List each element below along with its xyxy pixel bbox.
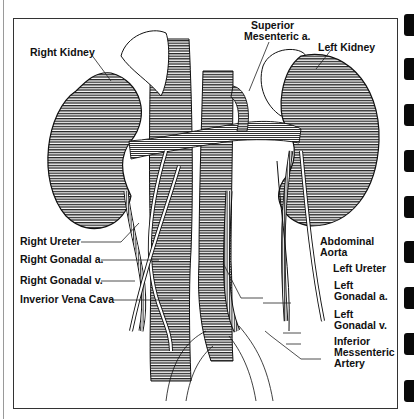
page-index-tab bbox=[404, 150, 414, 172]
page-index-tab bbox=[404, 380, 414, 402]
page-index-tab bbox=[404, 333, 414, 355]
page-index-tab bbox=[404, 196, 414, 218]
label-inferior-mesenteric-line3: Artery bbox=[334, 358, 365, 369]
label-right-ureter: Right Ureter bbox=[20, 236, 81, 247]
label-right-gonadal-vein: Right Gonadal v. bbox=[20, 275, 103, 286]
page-index-tab bbox=[404, 287, 414, 309]
label-abdominal-aorta-line2: Aorta bbox=[320, 247, 347, 258]
page-index-tab bbox=[404, 58, 414, 80]
label-superior-mesenteric-line2: Mesenteric a. bbox=[244, 31, 311, 42]
label-left-kidney: Left Kidney bbox=[318, 42, 375, 53]
page-index-tab bbox=[404, 104, 414, 126]
label-left-ureter: Left Ureter bbox=[333, 263, 386, 274]
page-index-tab bbox=[404, 241, 414, 263]
label-right-kidney: Right Kidney bbox=[30, 47, 95, 58]
label-left-gonadal-vein-line2: Gonadal v. bbox=[334, 320, 387, 331]
page-edge-line bbox=[3, 0, 4, 419]
label-left-gonadal-artery-line2: Gonadal a. bbox=[334, 291, 388, 302]
page-index-tab bbox=[404, 14, 414, 36]
label-right-gonadal-artery: Right Gonadal a. bbox=[20, 254, 103, 265]
label-inferior-vena-cava: Inverior Vena Cava bbox=[20, 294, 114, 305]
